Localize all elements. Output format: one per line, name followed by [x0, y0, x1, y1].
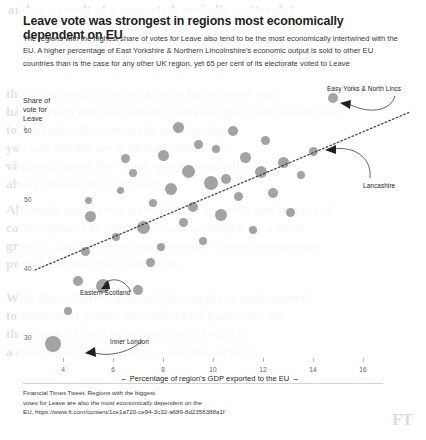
data-point-highlighted[interactable]	[328, 93, 338, 103]
x-axis-tick-mark	[213, 358, 214, 362]
data-point[interactable]	[240, 152, 251, 163]
source-line-3[interactable]: EU, https://www.ft.com/content/1ce1a720-…	[23, 407, 353, 417]
annotation-label: Eastern Scotland	[80, 289, 130, 296]
x-axis-tick-label: 12	[259, 366, 266, 373]
y-axis-tick-label: 60	[24, 127, 31, 134]
chart-subtitle: The regions with the highest share of vo…	[23, 33, 403, 70]
annotation-label: Inner London	[110, 338, 149, 345]
data-point[interactable]	[158, 150, 169, 161]
annotation-label: Easy Yorks & North Lincs	[327, 85, 401, 92]
x-axis-tick-label: 14	[309, 366, 316, 373]
source-line-1: Financial Times Tweet, Regions with the …	[23, 388, 353, 398]
data-point[interactable]	[188, 202, 198, 212]
data-point[interactable]	[85, 211, 96, 222]
data-point[interactable]	[112, 233, 120, 241]
data-point[interactable]	[173, 122, 184, 133]
data-point[interactable]	[194, 140, 203, 149]
x-axis-tick-mark	[63, 358, 64, 362]
x-axis-tick-mark	[363, 358, 364, 362]
y-axis-tick-label: 30	[24, 334, 31, 341]
data-point[interactable]	[286, 208, 295, 217]
ft-logo: FT	[392, 410, 412, 430]
x-axis-tick-label: 6	[111, 366, 115, 373]
source-line-2: votes for Leave are also the most econom…	[23, 398, 353, 408]
x-axis-tick-mark	[313, 358, 314, 362]
data-point[interactable]	[309, 147, 318, 156]
data-point[interactable]	[85, 197, 92, 204]
data-point[interactable]	[297, 171, 305, 179]
data-point[interactable]	[149, 199, 157, 207]
x-axis-tick-mark	[113, 358, 114, 362]
y-axis-tick-label: 40	[24, 265, 31, 272]
data-point[interactable]	[234, 192, 243, 201]
data-point[interactable]	[221, 174, 231, 184]
data-point[interactable]	[179, 218, 188, 227]
data-point[interactable]	[228, 126, 238, 136]
data-point[interactable]	[212, 145, 220, 153]
data-point-highlighted[interactable]	[278, 157, 289, 168]
x-axis-tick-label: 4	[61, 366, 65, 373]
x-axis-tick-mark	[263, 358, 264, 362]
data-point[interactable]	[146, 258, 155, 267]
data-point[interactable]	[117, 187, 124, 194]
annotation-label: Lancashire	[363, 182, 395, 189]
source-note: Financial Times Tweet, Regions with the …	[23, 388, 353, 417]
footer-divider	[23, 383, 383, 384]
data-point[interactable]	[255, 166, 267, 178]
x-axis-tick-label: 16	[359, 366, 366, 373]
scatter-plot-area	[23, 96, 408, 364]
y-axis-tick-label: 50	[24, 196, 31, 203]
data-point[interactable]	[133, 285, 143, 295]
data-point[interactable]	[157, 243, 165, 251]
x-axis-tick-label: 8	[161, 366, 165, 373]
data-point[interactable]	[204, 176, 218, 190]
x-axis-tick-label: 10	[209, 366, 216, 373]
x-axis-title: ← Percentage of region's GDP exported to…	[120, 374, 299, 383]
data-point[interactable]	[137, 221, 150, 234]
x-axis-tick-mark	[163, 358, 164, 362]
data-point[interactable]	[165, 183, 177, 195]
data-point[interactable]	[182, 165, 195, 178]
data-point[interactable]	[215, 209, 227, 221]
data-point-highlighted[interactable]	[45, 336, 61, 352]
